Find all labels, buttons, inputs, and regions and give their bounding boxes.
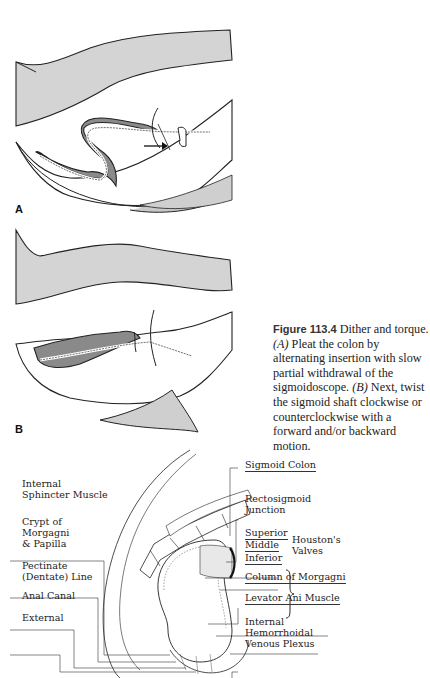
label-inferior-valve: Inferior <box>245 552 282 565</box>
caption-title: Dither and torque. <box>340 322 429 336</box>
label-pectinate-line: Pectinate (Dentate) Line <box>22 560 93 582</box>
panel-label-b: B <box>15 423 23 435</box>
label-external: External <box>22 612 64 623</box>
sigmoidoscopy-illustration-b <box>0 220 240 440</box>
figure-caption: Figure 113.4 Dither and torque. (A) Plea… <box>273 322 430 453</box>
label-crypt-of-morgagni: Crypt of Morgagni & Papilla <box>22 516 69 549</box>
caption-part-b-marker: (B) <box>352 380 368 394</box>
caption-part-a-marker: (A) <box>273 337 289 351</box>
panel-label-a: A <box>15 203 23 215</box>
figure-panel-b: B <box>0 220 240 440</box>
label-houstons-valves: Houston's Valves <box>292 534 341 556</box>
label-rectosigmoid-junction: Rectosigmoid Junction <box>245 493 311 515</box>
label-levator-ani-muscle: Levator Ani Muscle <box>245 592 340 605</box>
anorectal-anatomy-diagram: Internal Sphincter Muscle Crypt of Morga… <box>0 440 430 678</box>
label-sigmoid-colon: Sigmoid Colon <box>245 459 316 472</box>
label-middle-valve: Middle <box>245 539 279 552</box>
sigmoidoscopy-illustration-a <box>0 0 240 220</box>
label-column-of-morgagni: Column of Morgagni <box>245 571 346 584</box>
label-anal-canal: Anal Canal <box>22 590 75 601</box>
figure-number: Figure 113.4 <box>273 323 337 335</box>
label-internal-hemorrhoidal-plexus: Internal Hemorrhoidal Venous Plexus <box>245 616 315 649</box>
figure-panel-a: A <box>0 0 240 220</box>
label-internal-sphincter-muscle: Internal Sphincter Muscle <box>22 478 108 500</box>
anorectal-cross-section <box>0 440 430 678</box>
